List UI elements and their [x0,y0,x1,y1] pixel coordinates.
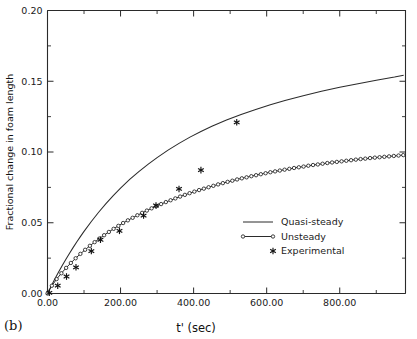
unsteady-marker [212,184,215,187]
y-tick-label: 0.00 [21,288,42,299]
chart-canvas: 0.00200.00400.00600.00800.00 0.000.050.1… [0,0,417,339]
unsteady-marker [397,154,400,157]
unsteady-marker [240,177,243,180]
unsteady-marker [402,153,405,156]
unsteady-marker [136,214,139,217]
unsteady-marker [259,173,262,176]
experimental-marker [64,273,70,280]
unsteady-marker [83,248,86,251]
unsteady-marker [164,200,167,203]
unsteady-marker [354,158,357,161]
experimental-marker [88,248,94,255]
unsteady-marker [273,170,276,173]
chart-legend: Quasi-steadyUnsteadyExperimental [241,216,344,256]
unsteady-marker [321,162,324,165]
series-unsteady [46,153,405,295]
unsteady-marker [102,234,105,237]
unsteady-marker [368,156,371,159]
legend-label: Experimental [281,245,344,256]
unsteady-marker [326,161,329,164]
unsteady-marker [345,159,348,162]
unsteady-marker [169,199,172,202]
unsteady-marker [207,186,210,189]
series-line [48,155,404,293]
unsteady-marker [307,164,310,167]
y-axis-title: Fractional change in foam length [4,74,15,231]
unsteady-marker [126,219,129,222]
axis-lines-top-right [48,11,406,294]
unsteady-marker [364,157,367,160]
unsteady-marker [64,266,67,269]
experimental-marker [117,228,123,235]
legend-swatch-circle [271,235,274,238]
y-tick-label: 0.10 [21,146,42,157]
unsteady-marker [174,197,177,200]
series-line [48,75,404,293]
unsteady-marker [359,157,362,160]
unsteady-marker [69,261,72,264]
experimental-marker [270,248,276,255]
unsteady-marker [269,171,272,174]
series-quasi-steady [48,75,404,293]
unsteady-marker [183,193,186,196]
unsteady-marker [88,244,91,247]
unsteady-marker [383,155,386,158]
unsteady-marker [221,181,224,184]
panel-label: (b) [4,318,22,333]
unsteady-marker [60,272,63,275]
y-tick-label: 0.05 [21,217,42,228]
unsteady-marker [55,277,58,280]
unsteady-marker [93,240,96,243]
unsteady-marker [178,195,181,198]
unsteady-marker [79,252,82,255]
unsteady-marker [330,161,333,164]
x-axis-title: t' (sec) [176,321,216,335]
x-tick-label: 200.00 [104,297,137,308]
experimental-marker [73,264,79,271]
unsteady-marker [145,209,148,212]
unsteady-marker [311,163,314,166]
y-axis-tick-labels: 0.000.050.100.150.20 [21,5,42,299]
unsteady-marker [150,207,153,210]
unsteady-marker [121,221,124,224]
unsteady-marker [245,176,248,179]
unsteady-marker [131,216,134,219]
unsteady-marker [107,230,110,233]
plot-frame [48,11,406,294]
unsteady-marker [335,160,338,163]
x-tick-label: 600.00 [250,297,283,308]
unsteady-marker [278,169,281,172]
unsteady-marker [254,174,257,177]
unsteady-marker [297,166,300,169]
unsteady-marker [112,227,115,230]
unsteady-marker [292,166,295,169]
unsteady-marker [231,179,234,182]
data-series-layer [46,75,405,296]
unsteady-marker [392,154,395,157]
x-axis-tick-labels: 0.00200.00400.00600.00800.00 [37,297,356,308]
unsteady-marker [302,165,305,168]
unsteady-marker [235,178,238,181]
experimental-marker [55,282,61,289]
unsteady-marker [283,168,286,171]
experimental-marker [176,186,182,193]
unsteady-marker [50,284,53,287]
unsteady-marker [316,163,319,166]
unsteady-marker [188,191,191,194]
unsteady-marker [74,257,77,260]
unsteady-marker [193,190,196,193]
x-tick-label: 800.00 [323,297,356,308]
y-tick-label: 0.15 [21,76,42,87]
figure-panel-b: 0.00200.00400.00600.00800.00 0.000.050.1… [0,0,417,339]
legend-label: Quasi-steady [281,216,344,227]
axis-lines-left-bottom [48,11,406,294]
unsteady-marker [373,156,376,159]
legend-swatch-circle [241,235,244,238]
legend-label: Unsteady [281,231,326,242]
unsteady-marker [159,202,162,205]
unsteady-marker [226,180,229,183]
y-tick-label: 0.20 [21,5,42,16]
unsteady-marker [349,159,352,162]
unsteady-marker [216,183,219,186]
unsteady-marker [378,156,381,159]
